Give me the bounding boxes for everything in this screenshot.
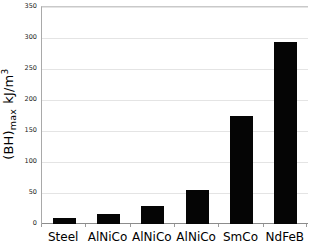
x-axis-tick-label: NdFeB [266, 227, 304, 247]
y-axis-tick-label: 100 [25, 157, 37, 165]
bar-chart: (BH)maxkJ/m3 050100150200250300350 Steel… [0, 0, 312, 248]
x-axis-tick-label: SmCo [223, 227, 258, 247]
y-axis-tick-label: 250 [25, 64, 37, 72]
x-axis-tick-label: AlNiCo [132, 227, 172, 247]
bar [230, 116, 253, 225]
x-axis-tick-label: AlNiCo [88, 227, 128, 247]
x-axis-tick-label: AlNiCo [176, 227, 216, 247]
y-axis-tick-label: 200 [25, 95, 37, 103]
bars-layer [42, 7, 308, 224]
y-axis-tick-label: 300 [25, 33, 37, 41]
y-axis-tick-label: 350 [25, 2, 37, 10]
y-axis-tick-label: 50 [29, 188, 37, 196]
y-axis-tick-label: 0 [33, 219, 37, 227]
y-axis-tick-label: 150 [25, 126, 37, 134]
plot-area [41, 6, 308, 224]
y-axis-tick-labels: 050100150200250300350 [14, 0, 40, 232]
bar [274, 42, 297, 224]
bar [97, 214, 120, 224]
bar [141, 206, 164, 224]
x-axis-tick-label: Steel [48, 227, 78, 247]
bar [186, 190, 209, 224]
x-axis-tick-labels: SteelAlNiCoAlNiCoAlNiCoSmCoNdFeB [41, 227, 308, 248]
y-axis-unit-exponent: 3 [1, 68, 11, 74]
